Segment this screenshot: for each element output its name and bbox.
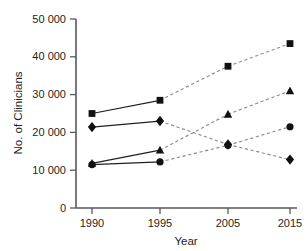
segment-circle-1995-2005 xyxy=(160,145,228,162)
square-marker xyxy=(225,63,232,70)
y-tick-label-10000: 10 000 xyxy=(32,164,66,176)
y-tick-label-30000: 30 000 xyxy=(32,88,66,100)
y-tick-label-50000: 50 000 xyxy=(32,13,66,25)
segment-diamond-1990-1995 xyxy=(92,121,160,127)
triangle-marker xyxy=(156,146,164,154)
y-axis-tick-labels: 50 000 40 000 30 000 20 000 10 000 0 xyxy=(32,13,66,214)
y-axis-title-group: No. of Clinicians xyxy=(12,71,24,154)
square-marker xyxy=(287,40,294,47)
circle-marker xyxy=(224,142,231,149)
series-square xyxy=(92,44,290,114)
y-tick-label-20000: 20 000 xyxy=(32,126,66,138)
circle-marker xyxy=(156,158,163,165)
segment-triangle-2005-2015 xyxy=(228,91,290,114)
data-series-layer xyxy=(88,40,294,168)
y-axis xyxy=(70,19,76,208)
markers-circle xyxy=(88,123,293,168)
segment-square-1995-2005 xyxy=(160,66,228,100)
chart-container: No. of Clinicians 50 000 40 000 30 000 2… xyxy=(0,0,307,251)
x-tick-label-2005: 2005 xyxy=(216,217,240,229)
segment-diamond-2005-2015 xyxy=(228,144,290,159)
segment-square-2005-2015 xyxy=(228,44,290,67)
x-axis xyxy=(76,208,297,214)
segment-square-1990-1995 xyxy=(92,100,160,113)
diamond-marker xyxy=(88,122,96,132)
clinicians-line-chart: No. of Clinicians 50 000 40 000 30 000 2… xyxy=(0,0,307,251)
segment-circle-1990-1995 xyxy=(92,162,160,165)
y-tick-label-40000: 40 000 xyxy=(32,50,66,62)
y-axis-title: No. of Clinicians xyxy=(12,71,24,154)
series-triangle xyxy=(92,91,290,164)
circle-marker xyxy=(88,161,95,168)
segment-circle-2005-2015 xyxy=(228,127,290,146)
x-tick-label-1990: 1990 xyxy=(80,217,104,229)
series-circle xyxy=(92,127,290,165)
x-tick-label-2015: 2015 xyxy=(278,217,302,229)
y-tick-label-0: 0 xyxy=(60,202,66,214)
markers-square xyxy=(89,40,294,117)
markers-diamond xyxy=(88,116,294,165)
triangle-marker xyxy=(286,86,294,94)
x-axis-tick-labels: 1990 1995 2005 2015 xyxy=(80,217,302,229)
square-marker xyxy=(89,110,96,117)
square-marker xyxy=(157,97,164,104)
x-axis-title: Year xyxy=(174,235,197,247)
diamond-marker xyxy=(286,154,294,164)
diamond-marker xyxy=(156,116,164,126)
x-tick-label-1995: 1995 xyxy=(148,217,172,229)
segment-diamond-1995-2005 xyxy=(160,121,228,144)
circle-marker xyxy=(286,123,293,130)
segment-triangle-1990-1995 xyxy=(92,150,160,163)
